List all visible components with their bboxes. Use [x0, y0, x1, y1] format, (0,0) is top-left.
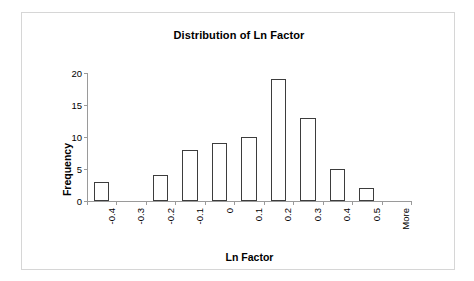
plot-area [87, 73, 411, 201]
x-axis-tick-label: -0.2 [165, 208, 176, 224]
bar [241, 137, 256, 201]
chart-title: Distribution of Ln Factor [22, 29, 456, 41]
x-axis-tick-mark [146, 201, 147, 205]
x-axis-tick-mark [264, 201, 265, 205]
bar [359, 188, 374, 201]
x-axis-tick-mark [234, 201, 235, 205]
x-axis-tick-label: -0.1 [194, 208, 205, 224]
y-axis-tick-label: 15 [71, 100, 82, 111]
y-axis-tick-label: 0 [77, 196, 82, 207]
x-axis-tick-label: 0.3 [312, 208, 323, 221]
x-axis-line [87, 201, 412, 202]
bar [330, 169, 345, 201]
x-axis-tick-mark [116, 201, 117, 205]
chart-frame: Distribution of Ln Factor Frequency 0510… [21, 12, 455, 270]
bar [300, 118, 315, 201]
bar [212, 143, 227, 201]
bar [182, 150, 197, 201]
x-axis-title: Ln Factor [87, 251, 412, 263]
x-axis-tick-mark [87, 201, 88, 205]
x-axis-tick-label: 0.1 [253, 208, 264, 221]
x-axis-tick-label: More [400, 208, 411, 230]
bar [153, 175, 168, 201]
bar [271, 79, 286, 201]
y-axis-tick-label: 10 [71, 132, 82, 143]
x-axis-tick-label: 0.2 [282, 208, 293, 221]
x-axis-tick-label: -0.4 [106, 208, 117, 224]
x-axis-tick-mark [323, 201, 324, 205]
x-axis-tick-mark [293, 201, 294, 205]
y-axis-title: Frequency [61, 143, 73, 196]
x-axis-tick-mark [175, 201, 176, 205]
x-axis-tick-mark [411, 201, 412, 205]
x-axis-tick-label: 0.4 [341, 208, 352, 221]
x-axis-tick-label: 0 [224, 208, 235, 213]
x-axis-tick-mark [352, 201, 353, 205]
y-axis-tick-label: 5 [77, 164, 82, 175]
x-axis-tick-label: -0.3 [135, 208, 146, 224]
x-axis-tick-label: 0.5 [371, 208, 382, 221]
y-axis-tick-label: 20 [71, 68, 82, 79]
x-axis-tick-mark [205, 201, 206, 205]
x-axis-tick-mark [382, 201, 383, 205]
bar [94, 182, 109, 201]
